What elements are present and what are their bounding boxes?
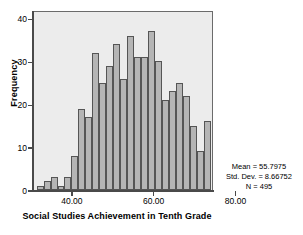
statistics-annotation: Mean = 55.7975 Std. Dev. = 8.66752 N = 4… (218, 162, 300, 192)
stat-std-dev: Std. Dev. = 8.66752 (218, 172, 300, 182)
x-axis-title: Social Studies Achievement in Tenth Grad… (12, 211, 222, 221)
histogram-bar (85, 117, 92, 190)
x-axis-line (32, 190, 214, 192)
histogram-bar (78, 109, 85, 190)
histogram-bar (155, 61, 162, 190)
histogram-bar (134, 57, 141, 190)
histogram-bar (148, 31, 155, 190)
histogram-bar (99, 83, 106, 190)
y-axis-tick (28, 105, 33, 107)
bar-series (34, 12, 212, 190)
x-axis-tick-label: 80.00 (214, 197, 258, 206)
y-axis-line (32, 11, 34, 191)
histogram-bar (113, 44, 120, 190)
stat-n: N = 495 (218, 182, 300, 192)
histogram-bar (71, 156, 78, 190)
x-axis-tick-label: 40.00 (50, 197, 94, 206)
histogram-bar (64, 177, 71, 190)
stat-mean: Mean = 55.7975 (218, 162, 300, 172)
histogram-bar (169, 91, 176, 190)
histogram-bar (183, 96, 190, 190)
histogram-bar (197, 151, 204, 190)
histogram-bar (120, 79, 127, 190)
y-axis-tick-label: 0 (3, 187, 27, 196)
y-axis-tick-label: 10 (3, 144, 27, 153)
y-axis-tick-label: 40 (3, 15, 27, 24)
histogram-figure: 010203040 Frequency 40.0060.0080.00 Soci… (0, 0, 303, 235)
histogram-bar (190, 126, 197, 190)
histogram-bar (51, 177, 58, 190)
y-axis-tick (28, 19, 33, 21)
histogram-bar (141, 57, 148, 190)
histogram-bar (127, 36, 134, 190)
y-axis-tick (28, 62, 33, 64)
histogram-bar (162, 100, 169, 190)
histogram-bar (176, 83, 183, 190)
histogram-bar (204, 121, 211, 190)
x-axis-tick-label: 60.00 (132, 197, 176, 206)
plot-area (33, 11, 213, 191)
y-axis-tick (28, 147, 33, 149)
histogram-bar (44, 181, 51, 190)
histogram-bar (92, 53, 99, 190)
histogram-bar (106, 66, 113, 190)
y-axis-title: Frequency (9, 43, 19, 123)
